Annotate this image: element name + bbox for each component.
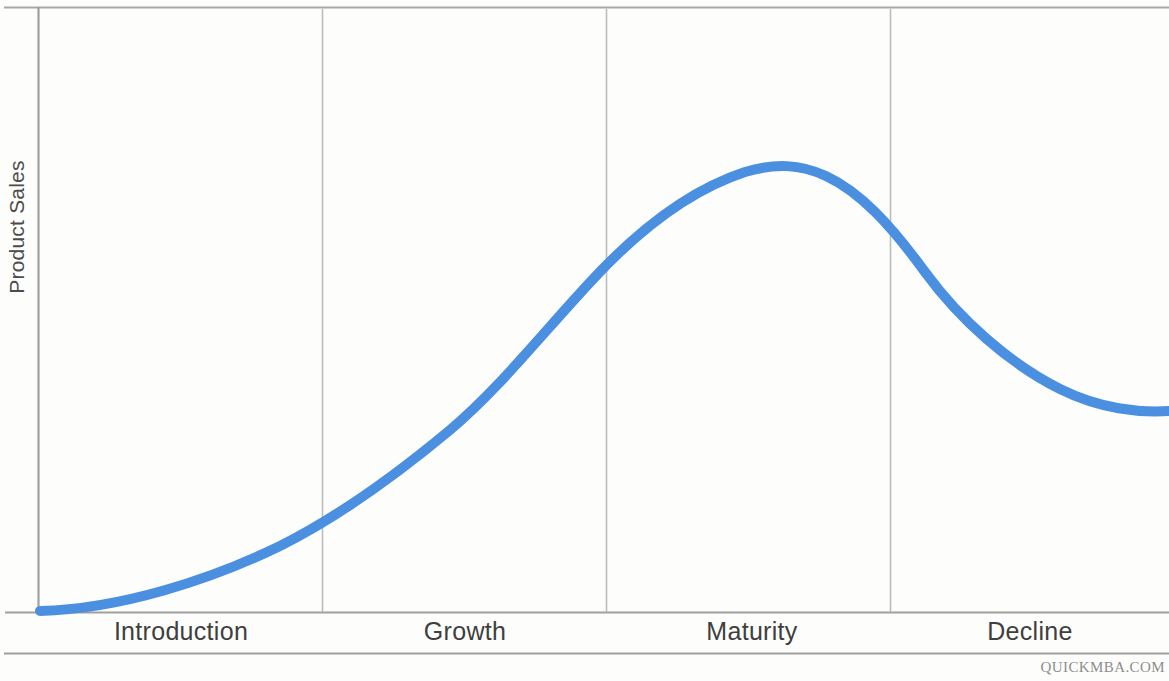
stage-label-introduction: Introduction [114, 617, 248, 646]
source-credit: QUICKMBA.COM [1041, 659, 1165, 676]
chart-plot-area [0, 0, 1169, 681]
stage-label-decline: Decline [987, 617, 1072, 646]
stage-label-maturity: Maturity [706, 617, 797, 646]
stage-label-growth: Growth [424, 617, 506, 646]
product-sales-curve [40, 166, 1169, 611]
product-life-cycle-chart: Product Sales Introduction Growth Maturi… [0, 0, 1169, 681]
